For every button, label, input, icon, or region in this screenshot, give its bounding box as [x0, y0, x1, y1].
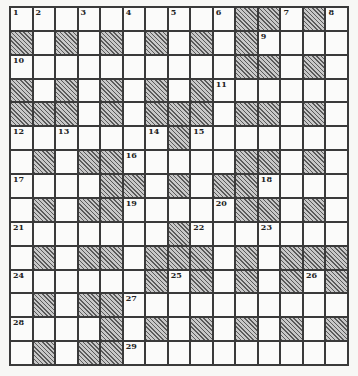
answer-cell[interactable]	[34, 175, 55, 197]
answer-cell[interactable]	[124, 318, 145, 340]
answer-cell[interactable]: 13	[56, 127, 77, 149]
answer-cell[interactable]: 6	[214, 8, 235, 30]
answer-cell[interactable]	[169, 80, 190, 102]
answer-cell[interactable]	[304, 294, 325, 316]
answer-cell[interactable]	[191, 175, 212, 197]
answer-cell[interactable]	[146, 175, 167, 197]
answer-cell[interactable]	[169, 294, 190, 316]
answer-cell[interactable]	[34, 32, 55, 54]
answer-cell[interactable]	[304, 127, 325, 149]
answer-cell[interactable]	[304, 32, 325, 54]
answer-cell[interactable]	[214, 127, 235, 149]
answer-cell[interactable]	[56, 247, 77, 269]
answer-cell[interactable]	[236, 80, 257, 102]
answer-cell[interactable]	[146, 8, 167, 30]
answer-cell[interactable]	[146, 294, 167, 316]
answer-cell[interactable]	[34, 80, 55, 102]
answer-cell[interactable]: 15	[191, 127, 212, 149]
answer-cell[interactable]	[326, 32, 347, 54]
answer-cell[interactable]	[124, 271, 145, 293]
answer-cell[interactable]	[326, 294, 347, 316]
answer-cell[interactable]: 12	[11, 127, 32, 149]
answer-cell[interactable]: 26	[304, 271, 325, 293]
answer-cell[interactable]	[169, 56, 190, 78]
answer-cell[interactable]	[281, 294, 302, 316]
answer-cell[interactable]: 23	[259, 223, 280, 245]
answer-cell[interactable]	[124, 80, 145, 102]
answer-cell[interactable]	[281, 56, 302, 78]
answer-cell[interactable]	[191, 151, 212, 173]
answer-cell[interactable]	[326, 127, 347, 149]
answer-cell[interactable]	[11, 199, 32, 221]
answer-cell[interactable]	[34, 127, 55, 149]
answer-cell[interactable]: 11	[214, 80, 235, 102]
answer-cell[interactable]	[326, 80, 347, 102]
answer-cell[interactable]	[281, 32, 302, 54]
answer-cell[interactable]	[214, 103, 235, 125]
answer-cell[interactable]	[56, 199, 77, 221]
answer-cell[interactable]	[214, 247, 235, 269]
answer-cell[interactable]: 16	[124, 151, 145, 173]
answer-cell[interactable]	[326, 342, 347, 364]
answer-cell[interactable]	[79, 32, 100, 54]
answer-cell[interactable]: 10	[11, 56, 32, 78]
answer-cell[interactable]	[259, 271, 280, 293]
answer-cell[interactable]	[281, 223, 302, 245]
answer-cell[interactable]	[259, 342, 280, 364]
answer-cell[interactable]	[214, 318, 235, 340]
answer-cell[interactable]	[146, 151, 167, 173]
answer-cell[interactable]	[124, 127, 145, 149]
answer-cell[interactable]	[146, 342, 167, 364]
answer-cell[interactable]: 18	[259, 175, 280, 197]
answer-cell[interactable]	[214, 151, 235, 173]
answer-cell[interactable]: 21	[11, 223, 32, 245]
answer-cell[interactable]	[214, 294, 235, 316]
answer-cell[interactable]	[214, 32, 235, 54]
answer-cell[interactable]: 8	[326, 8, 347, 30]
answer-cell[interactable]	[124, 247, 145, 269]
answer-cell[interactable]	[326, 151, 347, 173]
answer-cell[interactable]	[236, 127, 257, 149]
answer-cell[interactable]	[124, 56, 145, 78]
answer-cell[interactable]	[79, 175, 100, 197]
answer-cell[interactable]	[304, 175, 325, 197]
answer-cell[interactable]	[281, 199, 302, 221]
answer-cell[interactable]	[214, 56, 235, 78]
answer-cell[interactable]	[101, 127, 122, 149]
answer-cell[interactable]	[214, 271, 235, 293]
answer-cell[interactable]	[56, 223, 77, 245]
answer-cell[interactable]: 1	[11, 8, 32, 30]
answer-cell[interactable]: 28	[11, 318, 32, 340]
answer-cell[interactable]: 5	[169, 8, 190, 30]
answer-cell[interactable]	[56, 151, 77, 173]
answer-cell[interactable]	[56, 8, 77, 30]
answer-cell[interactable]: 20	[214, 199, 235, 221]
answer-cell[interactable]	[191, 8, 212, 30]
answer-cell[interactable]	[326, 103, 347, 125]
answer-cell[interactable]	[169, 318, 190, 340]
answer-cell[interactable]	[281, 103, 302, 125]
answer-cell[interactable]	[79, 318, 100, 340]
answer-cell[interactable]	[169, 151, 190, 173]
answer-cell[interactable]	[169, 32, 190, 54]
answer-cell[interactable]: 27	[124, 294, 145, 316]
answer-cell[interactable]	[169, 342, 190, 364]
answer-cell[interactable]	[236, 342, 257, 364]
answer-cell[interactable]	[56, 175, 77, 197]
answer-cell[interactable]	[34, 56, 55, 78]
answer-cell[interactable]	[11, 294, 32, 316]
answer-cell[interactable]	[214, 223, 235, 245]
answer-cell[interactable]	[56, 342, 77, 364]
answer-cell[interactable]	[79, 80, 100, 102]
answer-cell[interactable]	[259, 127, 280, 149]
answer-cell[interactable]	[281, 151, 302, 173]
answer-cell[interactable]: 3	[79, 8, 100, 30]
answer-cell[interactable]	[259, 294, 280, 316]
answer-cell[interactable]	[124, 103, 145, 125]
answer-cell[interactable]	[191, 56, 212, 78]
answer-cell[interactable]	[79, 103, 100, 125]
answer-cell[interactable]	[56, 318, 77, 340]
answer-cell[interactable]	[304, 318, 325, 340]
answer-cell[interactable]	[236, 294, 257, 316]
answer-cell[interactable]	[79, 127, 100, 149]
